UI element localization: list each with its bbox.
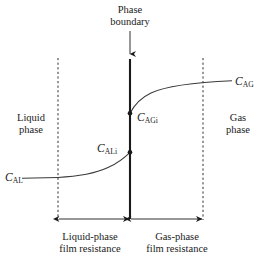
gas-film-resistance-label-line2: film resistance <box>134 243 220 255</box>
liquid-film-resistance-label: Liquid-phase film resistance <box>46 231 134 256</box>
gas-film-resistance-label-line1: Gas-phase <box>134 231 220 243</box>
c-ag-subscript: AG <box>243 80 254 89</box>
gas-concentration-curve <box>130 81 232 114</box>
liquid-film-resistance-label-line1: Liquid-phase <box>46 231 134 243</box>
c-agi-label: CAGi <box>137 111 158 126</box>
c-ali-base: C <box>97 142 105 154</box>
liquid-phase-label-line2: phase <box>8 124 54 136</box>
liquid-phase-label-line1: Liquid <box>8 112 54 124</box>
c-ag-label: CAG <box>235 75 254 90</box>
gas-film-resistance-label: Gas-phase film resistance <box>134 231 220 256</box>
phase-boundary-label-line1: Phase <box>94 4 166 16</box>
gas-phase-label-line2: phase <box>216 124 260 136</box>
phase-boundary-label-line2: boundary <box>94 16 166 28</box>
c-ali-label: CALi <box>97 142 117 157</box>
c-al-subscript: AL <box>13 176 23 185</box>
c-agi-point-marker <box>128 111 133 116</box>
c-agi-base: C <box>137 111 145 123</box>
liquid-phase-label: Liquid phase <box>8 112 54 137</box>
two-film-theory-diagram: Phase boundary Liquid phase Gas phase Li… <box>0 0 272 261</box>
c-al-base: C <box>5 171 13 183</box>
c-ali-subscript: ALi <box>105 147 118 156</box>
c-agi-subscript: AGi <box>145 116 158 125</box>
c-ag-base: C <box>235 75 243 87</box>
liquid-film-resistance-label-line2: film resistance <box>46 243 134 255</box>
gas-phase-label-line1: Gas <box>216 112 260 124</box>
c-al-label: CAL <box>5 171 23 186</box>
gas-phase-label: Gas phase <box>216 112 260 137</box>
c-ali-point-marker <box>128 150 133 155</box>
phase-boundary-label: Phase boundary <box>94 4 166 29</box>
